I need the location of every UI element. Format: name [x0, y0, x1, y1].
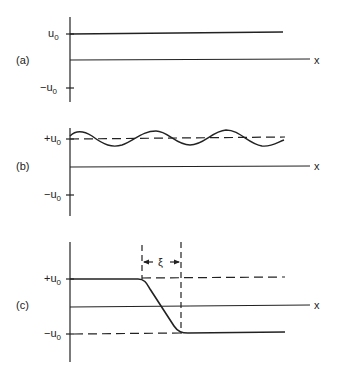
panel-b-wave — [70, 130, 284, 146]
panel-b-dashed-u0 — [70, 137, 285, 139]
panel-a-bottom-tick: −u0 — [40, 81, 58, 96]
panel-c-top-tick: +u0 — [44, 272, 62, 287]
panel-a-top-tick: u0 — [48, 27, 59, 42]
panel-c-x-axis — [70, 305, 310, 307]
panel-b-x-axis — [70, 166, 310, 167]
panel-a-constant-line — [70, 32, 283, 34]
panel-a-x-axis — [70, 59, 310, 60]
panel-a-label: (a) — [16, 54, 29, 66]
panel-b-top-tick: +u0 — [44, 132, 62, 147]
panel-c-label: (c) — [16, 299, 29, 311]
panel-b-label: (b) — [16, 160, 29, 172]
panel-c-bottom-tick: −u0 — [44, 327, 62, 342]
diagram: (a) u0 −u0 x (b) +u0 −u0 x (c) +u0 −u0 x… — [0, 0, 340, 374]
panel-b-x-label: x — [314, 160, 320, 172]
panel-b-bottom-tick: −u0 — [44, 188, 62, 203]
panel-a-x-label: x — [314, 54, 320, 66]
panel-c-x-label: x — [314, 299, 320, 311]
xi-width-label: ξ — [158, 256, 163, 268]
